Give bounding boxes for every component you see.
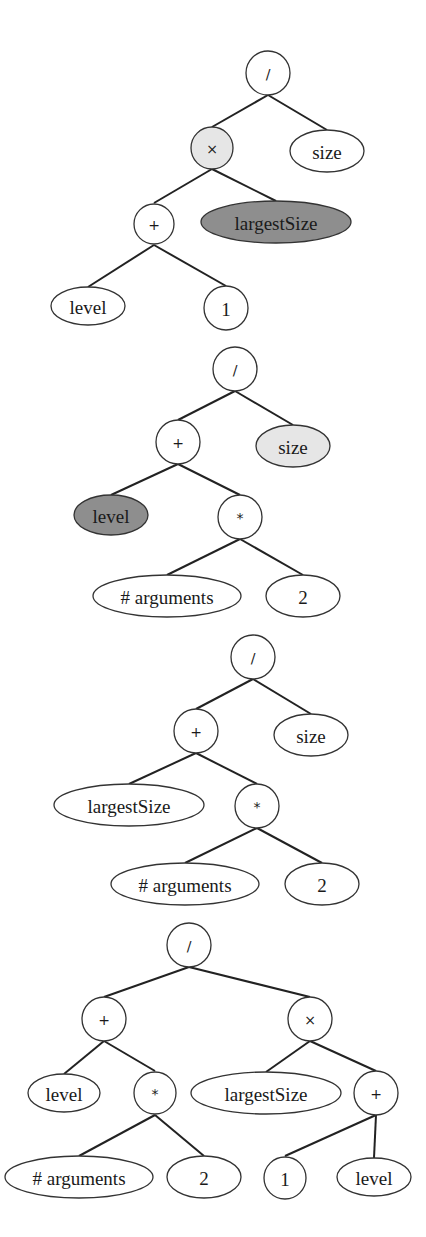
tree-edge — [104, 967, 189, 997]
node-level: level — [28, 1074, 100, 1112]
tree-edge — [253, 679, 311, 714]
node-label: + — [370, 1086, 382, 1102]
node-times-operator: × — [288, 997, 332, 1041]
tree-edge — [310, 1041, 376, 1071]
node-label: 2 — [317, 875, 327, 896]
node-label: # arguments — [32, 1168, 125, 1189]
node-2: 2 — [167, 1156, 241, 1198]
node-divide-operator: / — [213, 347, 257, 391]
tree-edge — [178, 464, 240, 495]
node-label: * — [152, 1086, 159, 1102]
expression-trees-diagram: /×size+largestSizelevel1/+sizelevel*# ar… — [0, 0, 426, 1237]
node-label: # arguments — [120, 587, 213, 608]
tree-1: /×size+largestSizelevel1 — [51, 51, 364, 330]
node-1: 1 — [264, 1157, 306, 1199]
tree-edge — [155, 1115, 204, 1156]
tree-edge — [154, 245, 226, 286]
node-label: * — [254, 799, 261, 815]
node-label: size — [296, 726, 326, 747]
node-size: size — [274, 714, 348, 756]
node-label: × — [304, 1012, 316, 1028]
tree-2: /+sizelevel*# arguments2 — [74, 347, 340, 617]
node-label: size — [278, 437, 308, 458]
node-label: size — [312, 142, 342, 163]
node-label: # arguments — [138, 875, 231, 896]
tree-edge — [185, 828, 257, 863]
node-plus-operator: + — [134, 204, 174, 244]
node-label: 1 — [221, 299, 231, 320]
node-largestsize: largestSize — [191, 1072, 341, 1114]
node-multiply-operator: * — [218, 495, 262, 539]
node-1: 1 — [204, 286, 248, 330]
tree-edge — [240, 539, 303, 575]
tree-edge — [64, 1041, 104, 1074]
tree-edge — [111, 464, 178, 495]
node-divide-operator: / — [167, 923, 211, 967]
tree-edge — [196, 753, 257, 784]
node-label: * — [237, 510, 244, 526]
node-label: + — [172, 435, 184, 451]
node-level: level — [337, 1158, 411, 1196]
tree-edge — [178, 391, 235, 420]
node-label: × — [206, 141, 218, 157]
tree-edge — [196, 679, 253, 709]
tree-edge — [212, 95, 268, 127]
node-size: size — [290, 130, 364, 172]
tree-edge — [104, 1041, 155, 1071]
node-divide-operator: / — [231, 635, 275, 679]
node-multiply-operator: * — [134, 1072, 176, 1114]
node-label: level — [356, 1168, 393, 1189]
node-arguments: # arguments — [93, 575, 241, 617]
tree-edge — [235, 391, 293, 425]
node-label: + — [190, 724, 202, 740]
node-label: 1 — [280, 1169, 290, 1190]
node-label: + — [98, 1012, 110, 1028]
node-label: / — [233, 362, 238, 378]
node-label: largestSize — [87, 796, 170, 817]
node-label: largestSize — [234, 213, 317, 234]
node-label: / — [187, 938, 192, 954]
node-level: level — [74, 495, 148, 535]
tree-3: /+sizelargestSize*# arguments2 — [54, 635, 359, 905]
tree-edge — [189, 967, 310, 997]
tree-edge — [285, 1115, 376, 1156]
node-label: level — [70, 297, 107, 318]
node-level: level — [51, 287, 125, 325]
node-label: 2 — [298, 587, 308, 608]
node-label: 2 — [199, 1168, 209, 1189]
tree-edge — [257, 828, 322, 863]
tree-edge — [374, 1115, 376, 1158]
node-label: level — [93, 506, 130, 527]
node-multiply-operator: * — [235, 784, 279, 828]
tree-edge — [79, 1115, 155, 1156]
tree-edge — [212, 169, 276, 201]
node-2: 2 — [285, 863, 359, 905]
tree-edge — [167, 539, 240, 575]
node-2: 2 — [266, 575, 340, 617]
node-arguments: # arguments — [111, 863, 259, 905]
node-label: largestSize — [224, 1084, 307, 1105]
node-times-operator: × — [191, 127, 233, 169]
tree-edge — [88, 245, 154, 287]
node-plus-operator: + — [156, 420, 200, 464]
node-divide-operator: / — [246, 51, 290, 95]
node-plus-operator: + — [354, 1071, 398, 1115]
tree-edge — [266, 1041, 310, 1072]
tree-edge — [129, 753, 196, 784]
node-label: / — [266, 66, 271, 82]
node-arguments: # arguments — [5, 1156, 153, 1198]
node-label: / — [251, 650, 256, 666]
node-plus-operator: + — [82, 997, 126, 1041]
node-plus-operator: + — [174, 709, 218, 753]
tree-4: /+×level*largestSize+# arguments21level — [5, 923, 411, 1199]
node-largestsize: largestSize — [201, 201, 351, 243]
tree-edge — [268, 95, 327, 130]
node-largestsize: largestSize — [54, 784, 204, 826]
node-label: + — [148, 217, 160, 233]
tree-edge — [154, 169, 212, 203]
node-label: level — [46, 1084, 83, 1105]
node-size: size — [256, 425, 330, 467]
